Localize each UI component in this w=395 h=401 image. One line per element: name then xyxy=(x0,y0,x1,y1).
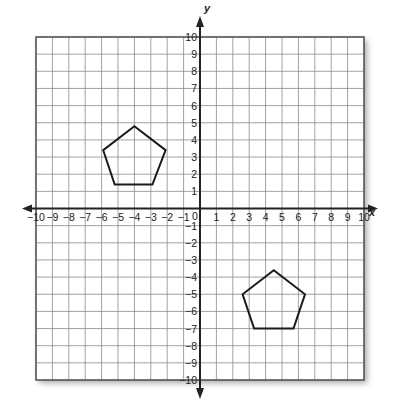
x-axis-label: x xyxy=(368,206,376,218)
x-tick-label: −9 xyxy=(46,211,58,223)
x-tick-label: −8 xyxy=(63,211,75,223)
y-tick-label: 4 xyxy=(191,134,197,146)
x-tick-label: 4 xyxy=(263,211,269,223)
x-tick-label: 1 xyxy=(213,211,219,223)
x-tick-label: −10 xyxy=(27,211,45,223)
x-tick-label: −4 xyxy=(128,211,140,223)
x-tick-label: −2 xyxy=(161,211,173,223)
coordinate-plane: −10−9−8−7−6−5−4−3−2−112345678910−10−9−8−… xyxy=(0,0,395,401)
y-tick-label: −3 xyxy=(185,254,197,266)
y-tick-label: 1 xyxy=(191,185,197,197)
y-axis-label: y xyxy=(203,2,211,14)
y-tick-label: −8 xyxy=(185,340,197,352)
y-tick-label: −4 xyxy=(185,271,197,283)
x-tick-label: −5 xyxy=(112,211,124,223)
x-tick-label: 7 xyxy=(312,211,318,223)
x-tick-label: −3 xyxy=(145,211,157,223)
y-tick-label: 7 xyxy=(191,82,197,94)
x-tick-label: 8 xyxy=(328,211,334,223)
y-tick-label: 6 xyxy=(191,100,197,112)
y-tick-label: 9 xyxy=(191,48,197,60)
x-tick-label: 5 xyxy=(279,211,285,223)
y-tick-label: −6 xyxy=(185,305,197,317)
x-tick-label: 6 xyxy=(295,211,301,223)
x-tick-label: 9 xyxy=(345,211,351,223)
y-axis-arrow-up-icon xyxy=(196,16,204,27)
x-tick-label: 2 xyxy=(230,211,236,223)
y-tick-label: 2 xyxy=(191,168,197,180)
x-tick-label: 3 xyxy=(246,211,252,223)
y-tick-label: −5 xyxy=(185,288,197,300)
y-tick-label: 3 xyxy=(191,151,197,163)
y-tick-label: −7 xyxy=(185,323,197,335)
y-axis-arrow-down-icon xyxy=(196,388,204,399)
x-tick-label: −6 xyxy=(96,211,108,223)
x-tick-label: −7 xyxy=(79,211,91,223)
y-tick-label: −10 xyxy=(179,374,197,386)
origin-label: 0 xyxy=(192,210,198,222)
y-tick-label: −9 xyxy=(185,357,197,369)
coordinate-grid-svg: −10−9−8−7−6−5−4−3−2−112345678910−10−9−8−… xyxy=(0,0,395,401)
y-tick-label: 5 xyxy=(191,117,197,129)
y-tick-label: 8 xyxy=(191,65,197,77)
y-tick-label: 10 xyxy=(185,31,197,43)
y-tick-label: −2 xyxy=(185,237,197,249)
